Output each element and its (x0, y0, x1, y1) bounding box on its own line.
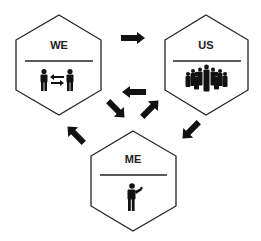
arrow-inner-down-right (103, 96, 129, 122)
node-we: WE (16, 15, 101, 115)
arrow-me-to-we (63, 122, 89, 148)
node-label-we: WE (50, 39, 68, 51)
hexagon-me (91, 131, 176, 231)
hexagon-we (16, 15, 101, 115)
node-me: ME (91, 131, 176, 231)
cycle-diagram: WE US (0, 0, 261, 241)
arrow-inner-left (122, 86, 146, 98)
node-us: US (165, 15, 248, 115)
node-label-me: ME (125, 153, 142, 165)
arrow-inner-up-right (137, 96, 163, 122)
arrow-us-to-me (178, 117, 204, 143)
node-label-us: US (198, 39, 213, 51)
arrow-we-to-us (121, 32, 145, 44)
